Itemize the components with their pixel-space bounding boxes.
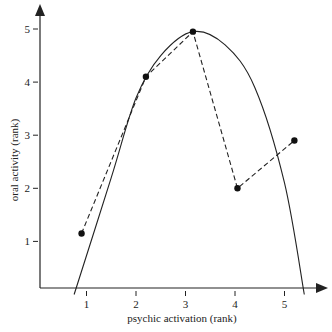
x-tick-label: 3 [183,298,189,310]
y-tick-label: 2 [25,182,31,194]
x-tick-label: 1 [84,298,90,310]
y-axis-arrow-icon [35,4,45,16]
x-axis-label: psychic activation (rank) [127,312,237,325]
data-point-marker [78,230,84,236]
x-tick-label: 5 [282,298,288,310]
x-axis-arrow-icon [316,283,328,293]
x-tick-label: 4 [232,298,238,310]
x-tick-label: 2 [133,298,139,310]
y-tick-label: 1 [25,235,31,247]
inverted-u-curve [74,31,304,294]
y-tick-label: 4 [25,76,31,88]
y-tick-label: 3 [25,129,31,141]
data-point-marker [143,74,149,80]
ticks: 1234512345 [25,23,288,310]
data-point-marker [234,185,240,191]
dashed-line [82,32,295,234]
data-point-marker [190,28,196,34]
y-axis-label: oral activity (rank) [8,118,21,201]
y-tick-label: 5 [25,23,31,35]
observed-series [78,28,297,236]
data-point-marker [291,137,297,143]
curve-path [74,31,304,294]
chart: 1234512345 psychic activation (rank) ora… [0,0,332,332]
